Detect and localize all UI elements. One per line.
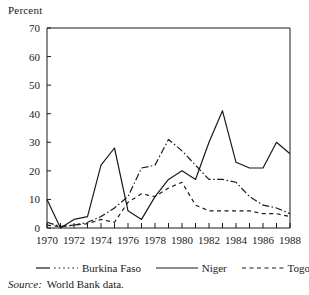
legend-item-burkina-faso: Burkina Faso <box>36 261 141 274</box>
svg-text:1970: 1970 <box>36 234 59 246</box>
line-dashed-icon <box>242 264 284 272</box>
source-note: Source:World Bank data. <box>8 278 124 290</box>
svg-text:20: 20 <box>29 165 41 177</box>
chart-figure: Percent 010203040506070 1970197219741976… <box>0 0 309 295</box>
svg-text:0: 0 <box>35 222 41 234</box>
series-line-togo <box>47 182 290 226</box>
svg-text:30: 30 <box>29 136 41 148</box>
svg-text:10: 10 <box>29 193 41 205</box>
svg-text:50: 50 <box>29 79 41 91</box>
series-line-burkina-faso <box>47 139 290 226</box>
source-text: World Bank data. <box>47 278 124 290</box>
svg-text:1982: 1982 <box>198 234 220 246</box>
legend-label-niger: Niger <box>202 262 227 274</box>
axis-frame <box>47 28 290 228</box>
svg-text:1980: 1980 <box>171 234 194 246</box>
svg-text:1988: 1988 <box>279 234 302 246</box>
data-series-layer <box>47 111 290 228</box>
line-dashdot-icon <box>36 264 78 272</box>
plot-area: 010203040506070 197019721974197619781980… <box>0 0 309 258</box>
legend-label-burkina-faso: Burkina Faso <box>82 262 141 274</box>
svg-text:40: 40 <box>29 108 41 120</box>
legend-label-togo: Togo <box>288 262 309 274</box>
svg-text:70: 70 <box>29 22 41 34</box>
line-solid-icon <box>156 264 198 272</box>
source-keyword: Source: <box>8 278 42 290</box>
svg-text:1978: 1978 <box>144 234 167 246</box>
legend-item-niger: Niger <box>156 261 227 274</box>
series-line-niger <box>47 111 290 228</box>
legend-item-togo: Togo <box>242 261 309 274</box>
svg-text:1974: 1974 <box>90 234 113 246</box>
svg-text:1972: 1972 <box>63 234 85 246</box>
svg-text:1976: 1976 <box>117 234 140 246</box>
chart-legend: Burkina Faso Niger Togo <box>36 260 306 276</box>
x-axis-ticks: 1970197219741976197819801982198419861988 <box>36 223 302 246</box>
svg-text:1984: 1984 <box>225 234 248 246</box>
svg-text:1986: 1986 <box>252 234 275 246</box>
svg-text:60: 60 <box>29 51 41 63</box>
